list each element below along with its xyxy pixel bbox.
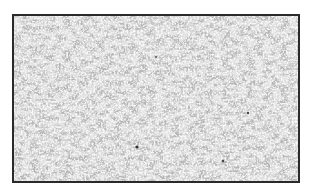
granular-texture <box>14 16 298 181</box>
textured-image-panel <box>12 14 300 183</box>
